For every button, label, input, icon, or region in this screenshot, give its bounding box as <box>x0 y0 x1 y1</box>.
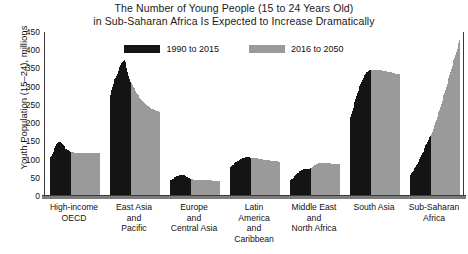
x-tick-label-line: Caribbean <box>218 234 290 245</box>
bar-projected <box>279 162 280 196</box>
y-tick-label: 350 <box>14 63 40 73</box>
bar-series <box>110 32 161 196</box>
bar-projected <box>219 181 220 196</box>
bar-series <box>410 32 461 196</box>
y-tick-label: 250 <box>14 100 40 110</box>
chart-title-line-2: in Sub-Saharan Africa Is Expected to Inc… <box>0 15 468 28</box>
bar-series <box>350 32 401 196</box>
x-tick-label-line: Africa <box>398 213 468 224</box>
y-axis-ticks: 050100150200250300350400450 <box>10 0 40 254</box>
bar-projected <box>459 40 460 196</box>
bar-group <box>110 32 161 196</box>
chart-title: The Number of Young People (15 to 24 Yea… <box>0 2 468 27</box>
x-axis-baseline <box>42 196 466 199</box>
y-tick-label: 100 <box>14 155 40 165</box>
chart-title-line-1: The Number of Young People (15 to 24 Yea… <box>0 2 468 15</box>
y-tick-label: 50 <box>14 173 40 183</box>
bar-projected <box>339 164 340 196</box>
y-tick-label: 300 <box>14 82 40 92</box>
bar-projected <box>399 74 400 196</box>
x-axis-labels: High-incomeOECDEast AsiaandPacificEurope… <box>44 202 464 254</box>
y-tick-label: 0 <box>14 191 40 201</box>
x-tick-label-line: Sub-Saharan <box>398 202 468 213</box>
bar-series <box>290 32 341 196</box>
x-axis-line <box>42 195 466 196</box>
bar-group <box>170 32 221 196</box>
bar-group <box>410 32 461 196</box>
y-tick-label: 450 <box>14 27 40 37</box>
bar-series <box>230 32 281 196</box>
y-tick-label: 150 <box>14 136 40 146</box>
bar-group <box>350 32 401 196</box>
y-tick-label: 200 <box>14 118 40 128</box>
plot-area <box>44 32 464 196</box>
chart-container: The Number of Young People (15 to 24 Yea… <box>0 0 468 254</box>
bar-group <box>50 32 101 196</box>
bar-series <box>170 32 221 196</box>
x-tick-label: Sub-SaharanAfrica <box>398 202 468 223</box>
bar-group <box>290 32 341 196</box>
bar-projected <box>99 153 100 196</box>
bar-projected <box>159 112 160 196</box>
x-tick-label-line: North Africa <box>278 223 350 234</box>
bar-group <box>230 32 281 196</box>
x-tick-label-line: and <box>278 213 350 224</box>
bar-series <box>50 32 101 196</box>
